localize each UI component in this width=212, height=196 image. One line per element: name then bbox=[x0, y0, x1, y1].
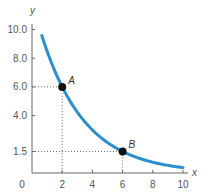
x-axis-title: x bbox=[191, 167, 198, 178]
x-tick-label: 4 bbox=[90, 179, 96, 190]
x-tick-label: 8 bbox=[150, 179, 156, 190]
data-points: AB bbox=[58, 75, 135, 156]
y-tick-label: 6.0 bbox=[13, 81, 27, 92]
point-a bbox=[58, 83, 66, 91]
x-tick-label: 2 bbox=[59, 179, 65, 190]
guide-lines bbox=[32, 87, 123, 173]
point-b bbox=[119, 147, 127, 155]
y-tick-label: 4.0 bbox=[13, 110, 27, 121]
y-axis-title: y bbox=[29, 5, 36, 16]
x-tick-label: 10 bbox=[177, 179, 189, 190]
axes bbox=[32, 24, 188, 173]
x-tick-label: 0 bbox=[19, 179, 25, 190]
x-tick-label: 6 bbox=[120, 179, 126, 190]
chart: 02468101.54.06.08.010.0 AB y x bbox=[0, 0, 212, 196]
y-tick-label: 8.0 bbox=[13, 53, 27, 64]
y-tick-label: 10.0 bbox=[8, 24, 28, 35]
curve-line bbox=[42, 36, 183, 168]
point-label-b: B bbox=[129, 139, 136, 150]
y-tick-label: 1.5 bbox=[13, 146, 27, 157]
point-label-a: A bbox=[67, 75, 75, 86]
